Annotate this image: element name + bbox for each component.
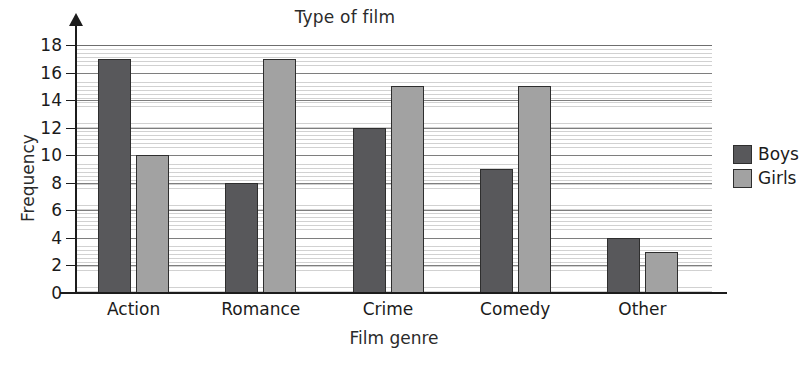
plot-area xyxy=(76,45,712,293)
y-tick-8 xyxy=(66,183,76,184)
y-tick-label-18: 18 xyxy=(22,35,62,55)
category-label-comedy: Comedy xyxy=(480,299,550,319)
y-tick-18 xyxy=(66,45,76,46)
y-tick-14 xyxy=(66,100,76,101)
y-tick-2 xyxy=(66,265,76,266)
legend-swatch-boys xyxy=(733,145,752,164)
gridline-18 xyxy=(76,45,712,46)
y-tick-12 xyxy=(66,128,76,129)
y-tick-label-0: 0 xyxy=(22,283,62,303)
bar-action-boys xyxy=(98,59,131,293)
bar-action-girls xyxy=(136,155,169,293)
gridline-16 xyxy=(76,73,712,74)
bar-chart-figure: Type of film 024681012141618 Frequency A… xyxy=(0,0,807,366)
bar-crime-girls xyxy=(391,86,424,293)
chart-title: Type of film xyxy=(0,7,690,27)
bar-other-boys xyxy=(607,238,640,293)
bar-crime-boys xyxy=(353,128,386,293)
y-axis-line xyxy=(75,22,77,294)
bar-comedy-girls xyxy=(518,86,551,293)
legend-item-girls: Girls xyxy=(733,166,799,190)
bar-comedy-boys xyxy=(480,169,513,293)
category-label-romance: Romance xyxy=(221,299,300,319)
category-label-other: Other xyxy=(618,299,666,319)
y-tick-16 xyxy=(66,73,76,74)
category-label-crime: Crime xyxy=(363,299,414,319)
bar-romance-girls xyxy=(263,59,296,293)
category-label-action: Action xyxy=(107,299,160,319)
legend-swatch-girls xyxy=(733,169,752,188)
bar-other-girls xyxy=(645,252,678,293)
legend: BoysGirls xyxy=(733,142,799,190)
y-tick-6 xyxy=(66,210,76,211)
bar-romance-boys xyxy=(225,183,258,293)
legend-label-girls: Girls xyxy=(758,170,796,187)
x-axis-title: Film genre xyxy=(76,328,712,348)
y-tick-10 xyxy=(66,155,76,156)
legend-label-boys: Boys xyxy=(758,146,799,163)
y-axis-title: Frequency xyxy=(18,88,38,268)
y-tick-0 xyxy=(66,293,76,294)
x-axis-line xyxy=(60,292,727,294)
legend-item-boys: Boys xyxy=(733,142,799,166)
y-tick-4 xyxy=(66,238,76,239)
y-tick-label-16: 16 xyxy=(22,63,62,83)
